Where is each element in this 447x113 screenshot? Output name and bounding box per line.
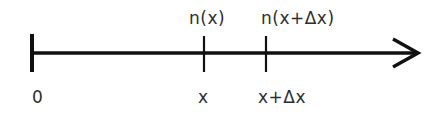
label-x: x (198, 89, 209, 106)
label-n-x: n(x) (189, 10, 225, 27)
label-x-plus-dx: x+Δx (258, 89, 306, 106)
number-line-diagram: n(x) n(x+Δx) 0 x x+Δx (0, 0, 447, 113)
label-n-x-plus-dx: n(x+Δx) (261, 10, 335, 27)
label-origin: 0 (32, 89, 43, 106)
